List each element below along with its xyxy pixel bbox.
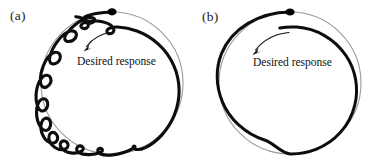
start-point-marker-a [107, 8, 116, 15]
panel-a-plot [0, 0, 189, 166]
annotation-arrow-curve-a [87, 33, 112, 47]
annotation-label-b: Desired response [253, 57, 332, 69]
panel-label-b: (b) [202, 10, 218, 24]
panel-b-plot [189, 0, 378, 166]
annotation-arrow-curve-b [256, 33, 290, 51]
panel-a: (a) Desired response [0, 0, 189, 166]
figure-root: (a) Desired response (b) Desired respons… [0, 0, 378, 166]
start-point-marker-b [285, 8, 294, 15]
annotation-label-a: Desired response [77, 56, 156, 68]
panel-b: (b) Desired response [189, 0, 378, 166]
panel-label-a: (a) [10, 9, 26, 23]
